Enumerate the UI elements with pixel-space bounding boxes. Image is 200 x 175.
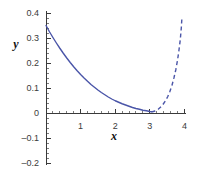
data-curve-solid bbox=[46, 26, 152, 112]
x-tick-label: 1 bbox=[78, 121, 83, 131]
x-axis-title: x bbox=[110, 129, 117, 143]
y-tick-label: 0.1 bbox=[26, 83, 39, 93]
y-tick-label: –0.2 bbox=[21, 158, 39, 168]
x-tick-label: 4 bbox=[182, 121, 187, 131]
y-tick-label: –0.1 bbox=[21, 133, 39, 143]
x-axis-tick-labels: 1234 bbox=[78, 121, 187, 131]
plot-area: 1234 –0.2–0.100.10.20.30.4 x y bbox=[0, 0, 200, 175]
y-tick-label: 0.3 bbox=[26, 33, 39, 43]
y-axis-title: y bbox=[11, 37, 19, 51]
y-axis-major-ticks bbox=[46, 13, 51, 163]
chart-figure: 1234 –0.2–0.100.10.20.30.4 x y bbox=[0, 0, 200, 175]
y-tick-label: 0.4 bbox=[26, 8, 39, 18]
y-tick-label: 0 bbox=[34, 108, 39, 118]
x-tick-label: 3 bbox=[147, 121, 152, 131]
data-curve-dashed bbox=[152, 17, 182, 112]
y-axis-tick-labels: –0.2–0.100.10.20.30.4 bbox=[21, 8, 39, 168]
x-axis-major-ticks bbox=[81, 109, 185, 114]
y-tick-label: 0.2 bbox=[26, 58, 39, 68]
